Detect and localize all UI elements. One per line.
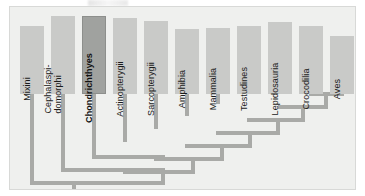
tip-stem-mixini [30,91,34,181]
node-crocodilia-aves-stem [324,92,328,105]
node-cephalaspidomorphi-bar [61,168,165,172]
node-testudines-stem [276,118,280,131]
taxon-box-lepidosauria[interactable]: Lepidosauria [268,22,292,94]
taxon-box-mammalia[interactable]: Mammalia [206,28,230,94]
taxon-box-chondrichthyes[interactable]: Chondrichthyes [82,16,106,94]
node-sarcopterygii-stem [191,157,195,170]
root-stub [72,181,76,189]
taxon-label-aves: Aves [332,79,342,99]
node-chondrichthyes-bar [92,155,165,159]
taxon-label-amphibia: Amphibia [177,70,187,108]
taxon-label-actinopterygii: Actinopterygii [115,61,125,116]
taxon-box-sarcopterygii[interactable]: Sarcopterygii [144,21,168,94]
node-mammalia-stem [248,131,252,144]
cladogram-panel: Mixini Cephalaspi- domorphi Chondrichthy… [9,6,356,190]
taxon-box-crocodilia[interactable]: Crocodilia [299,26,323,94]
taxon-box-mixini[interactable]: Mixini [20,26,44,94]
taxon-box-testudines[interactable]: Testudines [237,26,261,94]
node-amphibia-stem [220,144,224,157]
taxon-label-sarcopterygii: Sarcopterygii [146,62,156,116]
cladogram-figure: Mixini Cephalaspi- domorphi Chondrichthy… [0,0,365,196]
taxon-label-testudines: Testudines [239,67,249,111]
taxon-label-cephalaspidomorphi: Cephalaspi- domorphi [44,64,63,113]
taxon-box-cephalaspidomorphi[interactable]: Cephalaspi- domorphi [51,16,75,94]
taxon-label-chondrichthyes: Chondrichthyes [84,53,94,123]
taxon-box-actinopterygii[interactable]: Actinopterygii [113,18,137,94]
taxon-label-mixini: Mixini [22,77,32,101]
node-amphibia-bar [185,144,252,148]
taxon-box-aves[interactable]: Aves [330,36,354,94]
taxon-box-amphibia[interactable]: Amphibia [175,29,199,94]
node-root-bar [30,181,165,185]
taxon-label-crocodilia: Crocodilia [301,68,311,109]
taxon-label-lepidosauria: Lepidosauria [270,63,280,116]
taxon-label-mammalia: Mammalia [208,68,218,110]
